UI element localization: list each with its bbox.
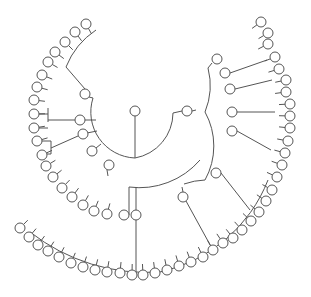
leaf-node bbox=[33, 240, 43, 250]
leaf-link bbox=[24, 220, 28, 224]
leaf-link bbox=[78, 36, 82, 41]
leaf-link bbox=[85, 195, 88, 200]
leaf-node bbox=[29, 109, 39, 119]
internal-node bbox=[75, 115, 85, 125]
leaf-node bbox=[43, 57, 53, 67]
leaf-node bbox=[50, 47, 60, 57]
leaf-link bbox=[42, 88, 48, 89]
leaf-node bbox=[281, 87, 291, 97]
leaf-link bbox=[154, 262, 155, 268]
leaf-node bbox=[37, 70, 47, 80]
leaf-node bbox=[54, 252, 64, 262]
leaf-node bbox=[263, 39, 273, 49]
leaf-link bbox=[267, 172, 272, 174]
leaf-link bbox=[277, 139, 283, 140]
leaf-link bbox=[176, 255, 178, 261]
leaf-link bbox=[96, 259, 97, 265]
leaf-node bbox=[66, 258, 76, 268]
tree-link bbox=[184, 68, 214, 184]
leaf-node bbox=[32, 136, 42, 146]
leaf-node bbox=[89, 206, 99, 216]
leaf-node bbox=[237, 225, 247, 235]
leaf-node bbox=[285, 99, 295, 109]
leaf-node bbox=[274, 64, 284, 74]
leaf-link bbox=[39, 101, 45, 102]
leaf-link bbox=[272, 161, 278, 163]
leaf-node bbox=[90, 265, 100, 275]
leaf-node bbox=[270, 52, 280, 62]
tree-link bbox=[39, 108, 75, 128]
tree-link bbox=[235, 80, 272, 89]
leaf-node bbox=[285, 123, 295, 133]
internal-node bbox=[119, 210, 129, 220]
leaf-link bbox=[108, 261, 109, 267]
tree-links bbox=[24, 25, 286, 275]
radial-tree-diagram bbox=[0, 0, 311, 297]
leaf-link bbox=[88, 28, 91, 33]
leaf-link bbox=[198, 247, 201, 252]
leaf-link bbox=[108, 203, 110, 209]
tree-link bbox=[182, 187, 183, 192]
leaf-link bbox=[275, 93, 281, 94]
leaf-link bbox=[42, 138, 48, 140]
leaf-link bbox=[226, 229, 230, 234]
internal-node bbox=[212, 54, 222, 64]
leaf-link bbox=[275, 81, 281, 82]
leaf-node bbox=[198, 252, 208, 262]
leaf-node bbox=[138, 270, 148, 280]
leaf-link bbox=[268, 70, 274, 72]
leaf-link bbox=[259, 36, 264, 39]
leaf-link bbox=[65, 180, 69, 184]
leaf-link bbox=[165, 259, 166, 265]
leaf-node bbox=[102, 267, 112, 277]
tree-link bbox=[41, 136, 78, 154]
internal-node bbox=[104, 160, 114, 170]
leaf-node bbox=[281, 75, 291, 85]
leaf-node bbox=[41, 161, 51, 171]
leaf-node bbox=[267, 185, 277, 195]
tree-link bbox=[89, 97, 93, 98]
leaf-link bbox=[279, 127, 285, 128]
tree-link bbox=[107, 170, 108, 176]
leaf-node bbox=[78, 200, 88, 210]
leaf-node bbox=[15, 223, 25, 233]
leaf-node bbox=[70, 27, 80, 37]
internal-node bbox=[220, 68, 230, 78]
leaf-node bbox=[263, 28, 273, 38]
leaf-node bbox=[261, 196, 271, 206]
leaf-node bbox=[285, 111, 295, 121]
tree-link bbox=[237, 131, 271, 150]
leaf-node bbox=[102, 209, 112, 219]
leaf-link bbox=[187, 252, 189, 258]
leaf-link bbox=[52, 64, 57, 67]
root-node bbox=[130, 106, 140, 116]
leaf-node bbox=[115, 268, 125, 278]
tree-link bbox=[208, 63, 212, 68]
leaf-node bbox=[280, 148, 290, 158]
tree-link bbox=[96, 144, 101, 148]
leaf-node bbox=[32, 82, 42, 92]
leaf-node bbox=[67, 192, 77, 202]
leaf-node bbox=[78, 262, 88, 272]
leaf-node bbox=[272, 172, 282, 182]
leaf-link bbox=[96, 201, 98, 207]
internal-node bbox=[80, 89, 90, 99]
leaf-link bbox=[120, 262, 121, 268]
leaf-node bbox=[186, 257, 196, 267]
leaf-link bbox=[252, 25, 257, 28]
tree-link bbox=[192, 110, 196, 111]
leaf-node bbox=[277, 160, 287, 170]
leaf-link bbox=[75, 188, 79, 193]
tree-nodes bbox=[15, 17, 295, 280]
leaf-link bbox=[258, 46, 263, 49]
leaf-link bbox=[50, 160, 55, 163]
leaf-node bbox=[228, 233, 238, 243]
internal-node bbox=[131, 210, 141, 220]
leaf-node bbox=[254, 207, 264, 217]
leaf-node bbox=[81, 19, 91, 29]
leaf-node bbox=[29, 123, 39, 133]
leaf-link bbox=[274, 150, 280, 152]
leaf-link bbox=[32, 229, 36, 234]
leaf-node bbox=[162, 265, 172, 275]
leaf-node bbox=[60, 37, 70, 47]
